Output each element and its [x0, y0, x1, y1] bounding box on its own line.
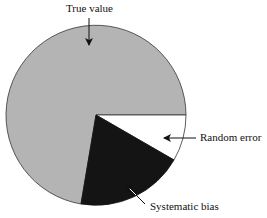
- label-systematic-bias: Systematic bias: [150, 200, 219, 212]
- pie-diagram: True value Random error Systematic bias: [0, 0, 267, 218]
- label-true-value: True value: [66, 2, 113, 14]
- label-random-error: Random error: [200, 131, 261, 143]
- pie-chart: [0, 0, 267, 218]
